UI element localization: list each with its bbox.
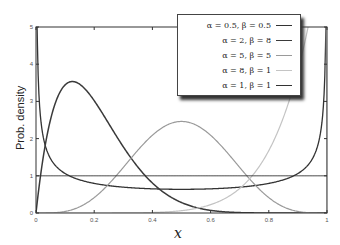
y-tick-label: 4: [30, 61, 34, 67]
legend-label: α = 8, β = 1: [222, 66, 271, 75]
legend-item: α = 5, β = 5: [222, 48, 292, 62]
x-tick-label: 0: [34, 217, 38, 223]
y-tick-label: 5: [30, 24, 34, 30]
x-axis-label: x: [174, 225, 182, 241]
legend: α = 0.5, β = 0.5 α = 2, β = 8 α = 5, β =…: [177, 14, 301, 96]
x-tick-label: 1: [325, 217, 329, 223]
legend-item: α = 0.5, β = 0.5: [207, 18, 292, 32]
x-tick-label: 0.8: [265, 217, 274, 223]
series-line: [36, 121, 327, 213]
legend-label: α = 2, β = 8: [222, 36, 271, 45]
legend-item: α = 2, β = 8: [222, 33, 292, 47]
legend-swatch-line: [276, 55, 292, 56]
legend-item: α = 1, β = 1: [222, 78, 292, 92]
y-axis-label: Prob. density: [14, 85, 26, 150]
legend-item: α = 8, β = 1: [222, 63, 292, 77]
y-tick-label: 3: [30, 98, 34, 104]
series-line: [36, 82, 327, 213]
legend-swatch-line: [276, 70, 292, 71]
legend-swatch-line: [276, 40, 292, 41]
legend-label: α = 0.5, β = 0.5: [207, 21, 271, 30]
y-tick-label: 1: [30, 173, 34, 179]
y-tick-label: 0: [30, 210, 34, 216]
legend-swatch-line: [276, 25, 292, 26]
legend-label: α = 1, β = 1: [222, 81, 271, 90]
x-tick-label: 0.6: [206, 217, 215, 223]
x-tick-label: 0.4: [148, 217, 157, 223]
legend-swatch-line: [276, 85, 292, 86]
x-tick-label: 0.2: [90, 217, 99, 223]
legend-label: α = 5, β = 5: [222, 51, 271, 60]
y-tick-label: 2: [30, 136, 34, 142]
